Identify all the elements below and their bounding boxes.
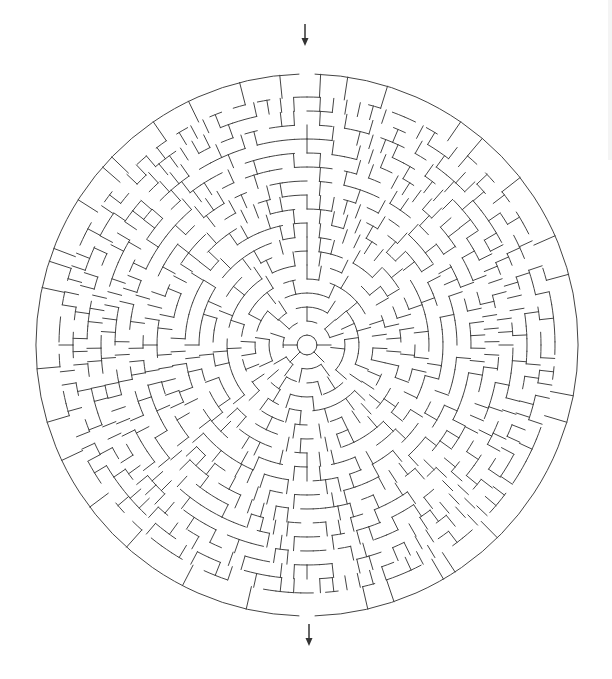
entrance-arrow-icon xyxy=(302,24,309,46)
exit-arrow-icon xyxy=(306,624,313,646)
maze-board[interactable] xyxy=(0,0,612,679)
maze-walls xyxy=(36,74,578,616)
